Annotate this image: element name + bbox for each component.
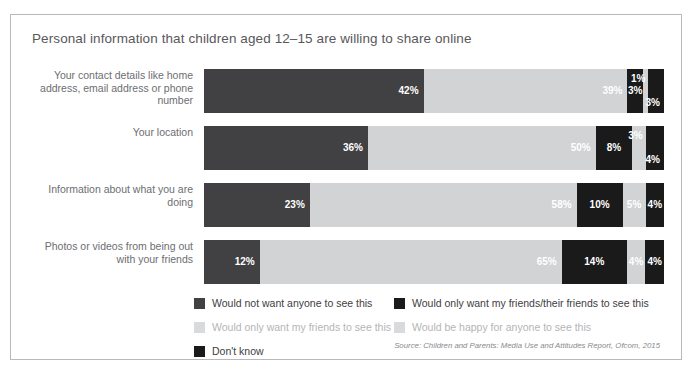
bar-segment-value: 8% (607, 143, 621, 153)
bar-segment: 58% (310, 183, 577, 227)
bar-segment-value: 12% (235, 257, 255, 267)
bar-segment-value: 3% (646, 98, 660, 108)
bar-row-label: Your location (33, 126, 193, 139)
bar-segment-value: 39% (602, 86, 622, 96)
bar-segment: 65% (260, 240, 562, 284)
source-note: Source: Children and Parents: Media Use … (394, 341, 660, 350)
bar-segment: 14% (562, 240, 627, 284)
bar-segment: 39% (424, 69, 628, 113)
legend-swatch-icon (394, 322, 405, 333)
legend-label: Would not want anyone to see this (212, 297, 372, 309)
bar-segment-value: 4% (648, 200, 662, 210)
bar-segment-value: 3% (628, 131, 642, 141)
bar-segment-value: 58% (552, 200, 572, 210)
legend-label: Would be happy for anyone to see this (412, 321, 591, 333)
bar-row: Your location36%50%8%3%4% (11, 126, 681, 170)
bar-segment-value: 4% (646, 155, 660, 165)
bar-segment: 3% (632, 126, 646, 170)
bar-track: 12%65%14%4%4% (204, 240, 664, 284)
bar-segment: 3% (648, 69, 664, 113)
legend-swatch-icon (194, 298, 205, 309)
bar-segment-value: 1% (631, 74, 645, 84)
legend-label: Would only want my friends to see this (212, 321, 391, 333)
bar-segment: 10% (577, 183, 623, 227)
bar-segment-value: 14% (584, 257, 604, 267)
bar-segment: 23% (204, 183, 310, 227)
bar-segment-value: 4% (629, 257, 643, 267)
bar-row-label: Photos or videos from being out with you… (33, 240, 193, 265)
bar-row-label: Your contact details like home address, … (33, 69, 193, 107)
bar-row: Photos or videos from being out with you… (11, 240, 681, 284)
bar-segment-value: 10% (590, 200, 610, 210)
legend-swatch-icon (194, 322, 205, 333)
bar-segment: 50% (368, 126, 596, 170)
legend-item[interactable]: Would only want my friends to see this (194, 317, 414, 337)
bar-segment: 5% (623, 183, 646, 227)
legend-swatch-icon (194, 346, 205, 357)
legend-item[interactable]: Would only want my friends/their friends… (394, 293, 684, 313)
bar-row: Information about what you are doing23%5… (11, 183, 681, 227)
bar-segment: 42% (204, 69, 424, 113)
bar-segment-value: 5% (627, 200, 641, 210)
bar-segment: 36% (204, 126, 368, 170)
plot-area: Your contact details like home address, … (11, 67, 681, 282)
legend-item[interactable]: Don't know (194, 341, 414, 361)
legend-label: Don't know (212, 345, 264, 357)
bar-segment-value: 36% (343, 143, 363, 153)
bar-segment-value: 23% (285, 200, 305, 210)
bar-track: 36%50%8%3%4% (204, 126, 664, 170)
bar-segment-value: 4% (647, 257, 661, 267)
bar-segment: 8% (596, 126, 632, 170)
bar-segment: 4% (645, 240, 664, 284)
bar-track: 42%39%3%1%3% (204, 69, 664, 113)
bar-segment: 4% (646, 126, 664, 170)
bar-row-label: Information about what you are doing (33, 183, 193, 208)
bar-segment: 12% (204, 240, 260, 284)
bar-segment-value: 65% (537, 257, 557, 267)
bar-segment-value: 3% (628, 86, 642, 96)
chart-card: Personal information that children aged … (10, 14, 682, 360)
bar-segment: 4% (646, 183, 664, 227)
legend-column-right: Would only want my friends/their friends… (394, 293, 684, 341)
bar-track: 23%58%10%5%4% (204, 183, 664, 227)
legend-label: Would only want my friends/their friends… (412, 297, 649, 309)
legend-swatch-icon (394, 298, 405, 309)
bar-segment: 4% (627, 240, 646, 284)
legend-item[interactable]: Would not want anyone to see this (194, 293, 414, 313)
legend-column-left: Would not want anyone to see thisWould o… (194, 293, 414, 365)
chart-title: Personal information that children aged … (32, 31, 472, 46)
legend-item[interactable]: Would be happy for anyone to see this (394, 317, 684, 337)
bar-row: Your contact details like home address, … (11, 69, 681, 113)
bar-segment-value: 50% (571, 143, 591, 153)
bar-segment-value: 42% (399, 86, 419, 96)
